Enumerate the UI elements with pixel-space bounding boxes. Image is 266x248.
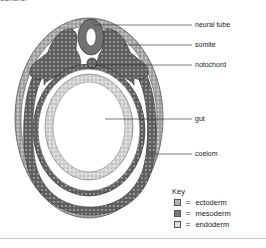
- equals-sign: =: [186, 198, 190, 207]
- gut-lumen: [53, 82, 125, 172]
- bottom-divider: [0, 238, 266, 239]
- key-label: mesoderm: [195, 209, 230, 218]
- key-label: endoderm: [195, 220, 229, 229]
- mesoderm-swatch: [174, 210, 181, 217]
- equals-sign: =: [186, 220, 190, 229]
- neural-canal: [86, 28, 96, 46]
- equals-sign: =: [186, 209, 190, 218]
- notochord: [87, 58, 97, 68]
- label-notochord: notochord: [195, 60, 226, 69]
- key-entry-ectoderm: = ectoderm: [174, 198, 227, 207]
- ectoderm-swatch: [174, 199, 181, 206]
- label-coelom: coelom: [195, 149, 218, 158]
- label-gut: gut: [195, 114, 205, 123]
- label-neural-tube: neural tube: [195, 20, 230, 29]
- endoderm-swatch: [174, 221, 181, 228]
- key-entry-mesoderm: = mesoderm: [174, 209, 231, 218]
- key-entry-endoderm: = endoderm: [174, 220, 229, 229]
- label-somite: somite: [195, 40, 216, 49]
- key-label: ectoderm: [195, 198, 226, 207]
- key-title: Key: [172, 187, 185, 196]
